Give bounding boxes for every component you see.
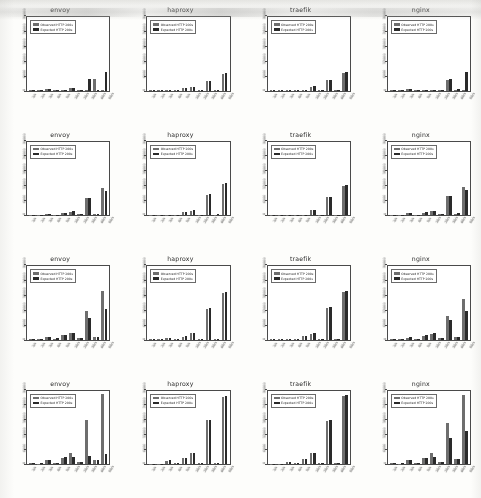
plot-area: Observed HTTP 200sExpected HTTP 200s: [146, 390, 230, 466]
x-axis-tick-label: 2/s: [40, 217, 46, 223]
chart-title: haproxy: [120, 131, 240, 138]
legend-swatch-observed: [33, 23, 39, 26]
bar-expected: [185, 458, 188, 464]
chart-legend: Observed HTTP 200sExpected HTTP 200s: [150, 145, 196, 159]
bar-expected: [72, 88, 75, 91]
bar-group: [221, 391, 229, 465]
bar-group: [437, 142, 445, 216]
legend-swatch-observed: [153, 23, 159, 26]
x-axis-tick-label: 5/s: [185, 217, 191, 223]
legend-item-observed: Observed HTTP 200s: [33, 147, 73, 151]
bar-expected: [40, 463, 43, 464]
bar-expected: [417, 463, 420, 464]
legend-item-observed: Observed HTTP 200s: [153, 23, 193, 27]
bar-expected: [88, 198, 91, 215]
x-axis-tick-label: 2/s: [401, 466, 407, 472]
bar-group: [76, 391, 84, 465]
legend-label-observed: Observed HTTP 200s: [41, 23, 73, 27]
bar-group: [333, 17, 341, 91]
chart-title: traefik: [241, 255, 361, 262]
legend-swatch-expected: [394, 402, 400, 405]
legend-swatch-observed: [394, 397, 400, 400]
x-axis-tick-label: 2/s: [280, 341, 286, 347]
chart-panel-nginx-r3: nginx0600012000180002400030000Observed H…: [361, 249, 481, 374]
x-axis-tick-label: 4/s: [418, 92, 424, 98]
plot-area: Observed HTTP 200sExpected HTTP 200s: [387, 265, 471, 341]
bar-expected: [465, 431, 468, 464]
legend-item-observed: Observed HTTP 200s: [274, 396, 314, 400]
x-axis-tick-label: 5/s: [306, 466, 312, 472]
chart-title: haproxy: [120, 6, 240, 13]
bar-expected: [417, 339, 420, 340]
bar-expected: [313, 453, 316, 464]
x-axis-tick-label: 20/s: [203, 91, 210, 99]
bar-expected: [209, 420, 212, 464]
x-axis-tick-label: 4/s: [57, 341, 63, 347]
plot-area: Observed HTTP 200sExpected HTTP 200s: [267, 265, 351, 341]
bar-group: [333, 266, 341, 340]
bar-expected: [201, 463, 204, 464]
x-axis-tick-label: 10/s: [194, 465, 201, 473]
x-axis: 1/s2/s3/s4/s5/s10/s20/s30/s40/s50/s: [267, 341, 351, 374]
x-axis-tick-label: 4/s: [177, 92, 183, 98]
bar-expected: [449, 320, 452, 340]
x-axis-tick-label: 50/s: [469, 340, 476, 348]
y-axis: 0600012000180002400030000: [0, 265, 26, 341]
x-axis-tick-label: 40/s: [460, 216, 467, 224]
bar-group: [453, 17, 461, 91]
chart-title: nginx: [361, 380, 481, 387]
chart-legend: Observed HTTP 200sExpected HTTP 200s: [391, 394, 437, 408]
plot-area: Observed HTTP 200sExpected HTTP 200s: [26, 141, 110, 217]
bar-expected: [465, 311, 468, 340]
bar-expected: [48, 337, 51, 339]
bar-group: [437, 391, 445, 465]
legend-label-observed: Observed HTTP 200s: [281, 272, 313, 276]
bar-group: [204, 17, 212, 91]
bar-expected: [313, 86, 316, 90]
x-axis-tick-label: 30/s: [91, 216, 98, 224]
plot-area: Observed HTTP 200sExpected HTTP 200s: [146, 141, 230, 217]
x-axis-tick-label: 2/s: [160, 466, 166, 472]
chart-title: traefik: [241, 131, 361, 138]
x-axis-tick-label: 1/s: [272, 92, 278, 98]
bar-group: [325, 17, 333, 91]
x-axis-tick-label: 50/s: [348, 465, 355, 473]
legend-label-expected: Expected HTTP 200s: [41, 152, 73, 156]
x-axis-tick-label: 20/s: [83, 91, 90, 99]
bar-group: [196, 17, 204, 91]
x-axis-tick-label: 30/s: [91, 465, 98, 473]
bar-group: [204, 142, 212, 216]
x-axis-tick-label: 50/s: [108, 465, 115, 473]
x-axis-tick-label: 40/s: [220, 91, 227, 99]
chart-panel-envoy-r4: envoy0600012000180002400030000Observed H…: [0, 374, 120, 498]
x-axis-tick-label: 5/s: [426, 92, 432, 98]
bar-observed: [93, 79, 96, 90]
bar-group: [92, 142, 100, 216]
x-axis-tick-label: 20/s: [83, 465, 90, 473]
legend-item-expected: Expected HTTP 200s: [274, 401, 314, 405]
bar-expected: [105, 191, 108, 215]
chart-legend: Observed HTTP 200sExpected HTTP 200s: [391, 20, 437, 34]
y-axis: 0600012000180002400030000: [241, 390, 267, 466]
x-axis: 1/s2/s3/s4/s5/s10/s20/s30/s40/s50/s: [267, 92, 351, 125]
legend-label-observed: Observed HTTP 200s: [281, 147, 313, 151]
legend-label-observed: Observed HTTP 200s: [281, 396, 313, 400]
x-axis-tick-label: 2/s: [401, 341, 407, 347]
legend-swatch-observed: [153, 148, 159, 151]
x-axis: 1/s2/s3/s4/s5/s10/s20/s30/s40/s50/s: [146, 216, 230, 249]
bar-expected: [409, 89, 412, 91]
legend-label-expected: Expected HTTP 200s: [281, 28, 313, 32]
x-axis-tick-label: 10/s: [435, 340, 442, 348]
x-axis-tick-label: 3/s: [169, 341, 175, 347]
x-axis-tick-label: 20/s: [443, 216, 450, 224]
bar-expected: [97, 90, 100, 91]
legend-swatch-expected: [153, 277, 159, 280]
bar-expected: [64, 457, 67, 464]
x-axis-tick-label: 5/s: [306, 341, 312, 347]
x-axis: 1/s2/s3/s4/s5/s10/s20/s30/s40/s50/s: [26, 92, 110, 125]
x-axis-tick-label: 10/s: [74, 91, 81, 99]
bar-expected: [433, 333, 436, 339]
legend-label-observed: Observed HTTP 200s: [41, 272, 73, 276]
bar-expected: [185, 88, 188, 90]
x-axis-tick-label: 40/s: [460, 91, 467, 99]
